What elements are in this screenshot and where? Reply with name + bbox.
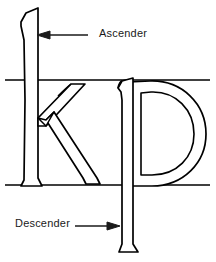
- descender-label: Descender: [15, 217, 70, 229]
- descender-arrowhead-icon: [107, 222, 120, 230]
- ascender-label: Ascender: [99, 27, 147, 39]
- ascender-arrowhead-icon: [37, 31, 50, 39]
- typography-diagram: Ascender Descender: [0, 0, 216, 262]
- letter-k-leg: [46, 112, 100, 184]
